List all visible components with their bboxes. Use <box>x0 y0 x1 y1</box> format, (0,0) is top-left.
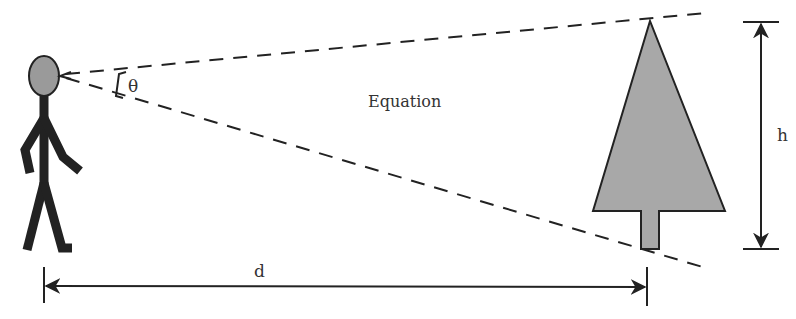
height-dimension <box>743 22 779 249</box>
diagram-canvas: θ Equation h d <box>0 0 796 319</box>
tree <box>593 21 725 249</box>
angle-label: θ <box>128 76 138 96</box>
height-label: h <box>777 125 788 145</box>
tree-crown <box>593 21 725 211</box>
observer-figure <box>25 56 80 250</box>
head-icon <box>29 56 59 96</box>
tree-trunk <box>641 211 659 249</box>
distance-label: d <box>254 261 265 281</box>
distance-dimension <box>44 267 647 306</box>
sight-lines <box>66 13 706 268</box>
equation-label: Equation <box>368 92 441 111</box>
